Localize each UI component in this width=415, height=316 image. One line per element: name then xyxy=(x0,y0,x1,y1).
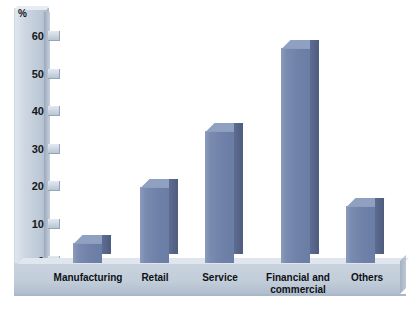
x-axis-label-service: Service xyxy=(185,272,255,284)
y-axis-label-20: 20 xyxy=(14,181,44,192)
bar-service xyxy=(205,123,234,263)
y-axis-label-50: 50 xyxy=(14,69,44,80)
x-axis-label-others: Others xyxy=(336,272,398,284)
y-axis-label-10: 10 xyxy=(14,219,44,230)
y-axis-tick-30 xyxy=(48,144,60,154)
x-axis-bottom-shadow xyxy=(14,294,406,296)
bar-side-face xyxy=(169,179,178,254)
bar-side-face xyxy=(310,40,319,254)
y-axis-label-60: 60 xyxy=(14,31,44,42)
x-axis-right-bevel xyxy=(400,255,406,294)
bar-manufacturing xyxy=(73,235,102,263)
bar-financial-and-commercial xyxy=(281,40,310,263)
y-axis-tick-10 xyxy=(48,219,60,229)
bar-others xyxy=(346,198,375,263)
y-axis-tick-40 xyxy=(48,106,60,116)
x-axis-label-retail: Retail xyxy=(120,272,190,284)
y-axis-tick-60 xyxy=(48,31,60,41)
label-line-2: commercial xyxy=(253,284,343,296)
label-line-1: Retail xyxy=(120,272,190,284)
bar-front-face xyxy=(281,48,310,263)
bar-front-face xyxy=(346,206,375,263)
bar-side-face xyxy=(375,198,384,254)
bar-retail xyxy=(140,179,169,263)
y-axis-label-40: 40 xyxy=(14,106,44,117)
y-axis-unit-label: % xyxy=(18,8,27,19)
x-axis-label-financial-and-commercial: Financial and commercial xyxy=(253,272,343,296)
bar-chart: % 60 50 40 30 20 10 0 xyxy=(0,0,415,316)
y-axis-tick-50 xyxy=(48,69,60,79)
y-axis-tick-20 xyxy=(48,181,60,191)
y-axis-label-30: 30 xyxy=(14,144,44,155)
bar-side-face xyxy=(234,123,243,254)
label-line-1: Service xyxy=(185,272,255,284)
label-line-1: Others xyxy=(336,272,398,284)
bar-front-face xyxy=(205,131,234,263)
bar-front-face xyxy=(140,187,169,263)
bar-front-face xyxy=(73,243,102,263)
bar-side-face xyxy=(102,235,111,254)
label-line-1: Financial and xyxy=(253,272,343,284)
